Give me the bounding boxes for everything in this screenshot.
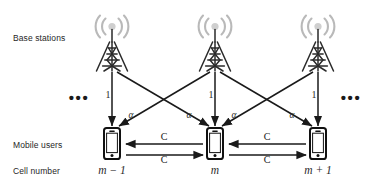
network-topology-figure: Base stations Mobile users Cell number •… xyxy=(0,0,377,186)
cell-number-label-m-minus-1: m − 1 xyxy=(98,164,126,176)
base-station-tower-m-plus-1 xyxy=(289,14,347,74)
direct-link-group xyxy=(112,72,318,126)
phone-home-button xyxy=(317,154,320,157)
phone-speaker xyxy=(315,131,321,132)
direct-gain-label-m-minus-1: 1 xyxy=(106,89,111,100)
phone-speaker xyxy=(212,131,218,132)
phone-screen xyxy=(313,133,324,152)
interference-gain-label-4: α xyxy=(290,110,295,120)
tower-mast xyxy=(200,30,231,72)
base-station-tower-m xyxy=(186,14,244,74)
cooperation-label-right-upper: C xyxy=(264,131,271,142)
mobile-user-phone-m-plus-1 xyxy=(309,127,327,160)
phone-screen xyxy=(210,133,221,152)
row-label-mobile-users: Mobile users xyxy=(13,140,62,150)
direct-gain-label-m: 1 xyxy=(209,89,214,100)
cell-number-label-m: m xyxy=(211,164,219,176)
phone-home-button xyxy=(111,154,114,157)
mobile-user-phone-m xyxy=(206,127,224,160)
cooperation-label-right-lower: C xyxy=(264,154,271,165)
continuation-ellipsis-left: ••• xyxy=(69,90,90,105)
direct-gain-label-m-plus-1: 1 xyxy=(312,89,317,100)
cooperation-label-left-upper: C xyxy=(161,131,168,142)
interference-gain-label-1: α xyxy=(129,110,134,120)
interference-gain-label-2: α xyxy=(187,110,192,120)
tower-mast xyxy=(303,30,334,72)
phone-speaker xyxy=(109,131,115,132)
base-station-tower-m-minus-1 xyxy=(83,14,141,74)
phone-screen xyxy=(107,133,118,152)
cell-number-label-m-plus-1: m + 1 xyxy=(304,164,332,176)
row-label-cell-number: Cell number xyxy=(13,166,60,176)
mobile-user-phone-m-minus-1 xyxy=(103,127,121,160)
row-label-base-stations: Base stations xyxy=(13,33,65,43)
cooperation-label-left-lower: C xyxy=(161,154,168,165)
continuation-ellipsis-right: ••• xyxy=(341,90,362,105)
interference-gain-label-3: α xyxy=(232,110,237,120)
tower-mast xyxy=(97,30,128,72)
phone-home-button xyxy=(214,154,217,157)
